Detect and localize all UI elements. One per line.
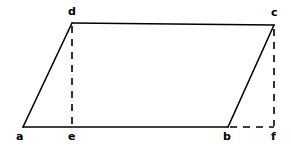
vertex-label-f: f — [271, 131, 276, 142]
parallelogram-diagram — [0, 0, 291, 148]
geometry-figure: a e b f d c — [0, 0, 291, 148]
vertex-label-d: d — [68, 6, 76, 17]
vertex-label-b: b — [223, 131, 231, 142]
vertex-label-e: e — [68, 131, 75, 142]
vertex-label-a: a — [16, 131, 23, 142]
side-dc-line — [72, 23, 274, 25]
side-ad-line — [23, 23, 72, 127]
side-bc-line — [228, 25, 274, 127]
vertex-label-c: c — [271, 7, 278, 18]
